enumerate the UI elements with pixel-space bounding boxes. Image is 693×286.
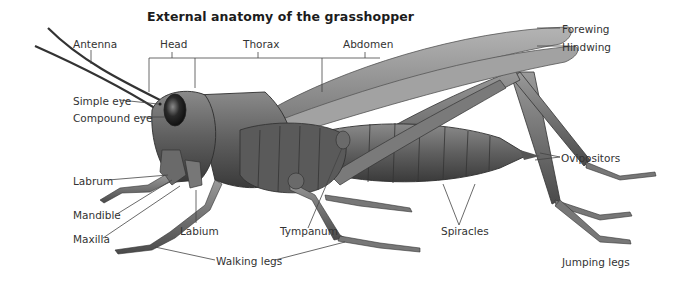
label-antenna: Antenna xyxy=(73,38,117,50)
label-labium: Labium xyxy=(180,225,219,237)
label-abdomen: Abdomen xyxy=(343,38,393,50)
tympanum-shape xyxy=(336,131,350,149)
label-compound-eye: Compound eye xyxy=(73,112,153,124)
simple-eye-shape xyxy=(158,102,161,105)
label-tympanum: Tympanum xyxy=(280,225,338,237)
label-labrum: Labrum xyxy=(73,175,113,187)
label-mandible: Mandible xyxy=(73,209,121,221)
label-walking-legs: Walking legs xyxy=(216,255,282,267)
label-forewing: Forewing xyxy=(562,23,609,35)
label-hindwing: Hindwing xyxy=(562,41,611,53)
label-head: Head xyxy=(160,38,187,50)
label-ovipositors: Ovipositors xyxy=(561,152,620,164)
label-jumping-legs: Jumping legs xyxy=(562,256,630,268)
grasshopper-anatomy-diagram: External anatomy of the grasshopper Ante… xyxy=(0,0,693,286)
diagram-title: External anatomy of the grasshopper xyxy=(147,9,414,24)
label-thorax: Thorax xyxy=(243,38,279,50)
label-maxilla: Maxilla xyxy=(73,233,110,245)
label-spiracles: Spiracles xyxy=(441,225,489,237)
label-simple-eye: Simple eye xyxy=(73,95,131,107)
compound-eye-shape xyxy=(164,94,186,126)
